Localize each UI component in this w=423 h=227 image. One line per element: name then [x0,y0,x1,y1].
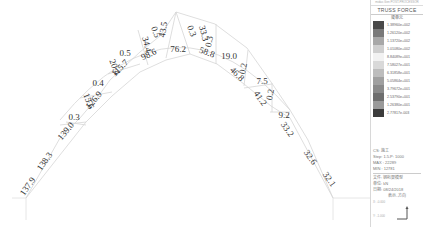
legend-swatch [373,101,384,109]
legend-swatch [373,45,384,53]
legend-scale-row: 2.53790e+001 [373,93,423,101]
top-chord [26,12,333,198]
force-label: 0.5 [119,48,131,58]
legend-value: 5.05864e+001 [387,79,410,83]
legend-value: 6.31858e+001 [387,71,410,75]
supports [12,198,370,220]
truss-diagram: 137.9138.3139.00.315.6126.90.420.4115.70… [0,0,370,227]
legend-scale-row: 1.26120e+002 [373,29,423,37]
legend-value: 2.77817e-003 [387,111,409,115]
legend-swatch [373,77,384,85]
force-label: 137.9 [18,175,38,198]
force-label: 43.5 [157,20,170,38]
legend-scale-row: 2.77817e-003 [373,109,423,117]
legend-value: 2.53790e+001 [387,95,410,99]
legend-swatch [373,109,384,117]
web-members [60,12,290,125]
legend-scale-row: 7.58027e+001 [373,61,423,69]
legend-scale-row: 1.26380e+001 [373,101,423,109]
legend-scale-row: 1.01080e+002 [373,45,423,53]
info-view: 表示-方向 [373,193,421,199]
legend-scale-row: 1.38960e+002 [373,21,423,29]
legend-swatch [373,69,384,77]
force-label: 76.2 [170,44,186,54]
legend-scale-row: 6.31858e+001 [373,69,423,77]
legend-value: 1.26120e+002 [387,31,410,35]
force-label: 32.6 [302,148,320,167]
force-label: 33.2 [279,120,296,139]
legend-value: 8.84089e+001 [387,55,410,59]
legend-scale-row: 1.13720e+002 [373,37,423,45]
truss-diagram-canvas[interactable]: 137.9138.3139.00.315.6126.90.420.4115.70… [0,0,370,227]
legend-swatch [373,85,384,93]
legend-value: 1.38960e+002 [387,23,410,27]
force-label: 7.5 [256,76,268,86]
force-label: 98.6 [139,46,158,62]
legend-swatch [373,61,384,69]
legend-value: 1.01080e+002 [387,47,410,51]
force-label: 32.1 [321,170,338,189]
legend-swatch [373,29,384,37]
legend-swatch [373,53,384,61]
force-label: 19.0 [221,51,237,61]
force-label: 58.8 [198,45,217,60]
force-labels: 137.9138.3139.00.315.6126.90.420.4115.70… [18,20,338,197]
force-label: 0.4 [92,78,104,88]
legend-scale-row: 5.05864e+001 [373,77,423,85]
legend-title: TRUSS FORCE [371,6,423,15]
legend-swatch [373,37,384,45]
legend-scale-row: 8.84089e+001 [373,53,423,61]
legend-panel: midas Gen POST-PROCESSOR TRUSS FORCE 梁单元… [370,0,423,227]
force-label: 0.3 [68,112,80,122]
legend-scale-row: 3.79672e+001 [373,85,423,93]
force-label: 9.2 [278,110,289,120]
legend-value: 3.79672e+001 [387,87,410,91]
legend-color-scale: 1.38960e+0021.26120e+0021.13720e+0021.01… [373,21,423,117]
info-min: MIN : 12781 [373,166,421,172]
legend-swatch [373,21,384,29]
legend-value: 1.13720e+002 [387,39,410,43]
legend-swatch [373,93,384,101]
legend-value: 7.58027e+001 [387,63,410,67]
force-label: 0.3 [185,24,198,38]
legend-info: CS: 施工 Step: 1.5.P: 1000 MAX : 22289 MIN… [373,148,421,199]
legend-value: 1.26380e+001 [387,103,410,107]
axis-triad-icon [393,206,413,222]
